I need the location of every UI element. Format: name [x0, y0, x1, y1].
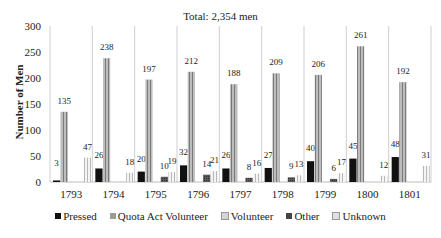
legend-label: Unknown: [342, 210, 385, 222]
bar-unknown: [295, 175, 302, 182]
legend-label: Quota Act Volunteer: [118, 210, 208, 222]
data-label: 9: [289, 161, 294, 171]
legend-swatch: [286, 213, 292, 219]
bar-unknown: [380, 176, 387, 182]
data-label: 8: [247, 162, 252, 172]
bar-quota-act-volunteer: [103, 58, 110, 182]
data-label: 32: [179, 147, 188, 157]
bar-quota-act-volunteer: [145, 80, 152, 182]
bar-quota-act-volunteer: [188, 72, 195, 182]
bar-other: [330, 179, 337, 182]
legend-swatch: [332, 212, 340, 220]
bar-unknown: [422, 166, 429, 182]
legend-label: Pressed: [63, 210, 97, 222]
legend: PressedQuota Act VolunteerVolunteerOther…: [0, 210, 441, 222]
data-label: 26: [94, 150, 104, 160]
data-label: 261: [354, 30, 368, 40]
bar-pressed: [95, 168, 102, 182]
legend-item: Pressed: [55, 210, 97, 222]
data-label: 26: [221, 150, 231, 160]
bar-other: [288, 177, 295, 182]
data-label: 188: [227, 68, 241, 78]
bar-pressed: [265, 168, 272, 182]
data-label: 197: [142, 64, 156, 74]
x-tick-label: 1801: [399, 188, 421, 200]
legend-swatch: [221, 212, 229, 220]
data-label: 209: [269, 57, 283, 67]
bar-chart: 0501001502002503001793179417951796179717…: [0, 0, 441, 238]
bar-unknown: [253, 174, 260, 182]
bar-unknown: [338, 173, 345, 182]
bar-unknown: [168, 172, 175, 182]
legend-label: Volunteer: [231, 210, 274, 222]
x-tick-label: 1794: [103, 188, 126, 200]
bar-quota-act-volunteer: [315, 75, 322, 182]
data-label: 206: [312, 59, 326, 69]
data-label: 18: [125, 157, 135, 167]
y-tick-label: 200: [25, 72, 42, 84]
bar-pressed: [180, 165, 187, 182]
bar-pressed: [392, 157, 399, 182]
bar-unknown: [211, 171, 218, 182]
x-tick-label: 1795: [145, 188, 168, 200]
bar-other: [161, 177, 168, 182]
y-tick-label: 250: [25, 46, 42, 58]
data-label: 31: [422, 150, 431, 160]
bar-unknown: [84, 158, 91, 182]
data-label: 12: [379, 160, 388, 170]
bar-pressed: [307, 161, 314, 182]
bar-other: [245, 178, 252, 182]
data-label: 47: [83, 142, 93, 152]
x-tick-label: 1796: [187, 188, 210, 200]
data-label: 17: [337, 157, 347, 167]
bar-pressed: [53, 180, 60, 182]
data-label: 20: [137, 154, 147, 164]
bar-quota-act-volunteer: [357, 46, 364, 182]
bar-quota-act-volunteer: [230, 84, 237, 182]
data-label: 27: [264, 150, 274, 160]
bar-other: [203, 175, 210, 182]
data-label: 45: [348, 141, 358, 151]
x-tick-label: 1799: [314, 188, 337, 200]
x-tick-label: 1800: [357, 188, 380, 200]
bar-pressed: [222, 168, 229, 182]
legend-item: Other: [286, 210, 319, 222]
x-tick-label: 1793: [60, 188, 83, 200]
data-label: 212: [185, 56, 199, 66]
x-tick-label: 1797: [230, 188, 253, 200]
bars: 3135472623818201971019322121421261888162…: [53, 30, 431, 182]
legend-item: Quota Act Volunteer: [110, 210, 208, 222]
data-label: 13: [295, 159, 305, 169]
legend-item: Unknown: [332, 210, 385, 222]
bar-pressed: [138, 172, 145, 182]
data-label: 40: [306, 143, 316, 153]
y-tick-label: 100: [25, 124, 42, 136]
bar-quota-act-volunteer: [272, 73, 279, 182]
data-label: 19: [168, 156, 178, 166]
x-tick-label: 1798: [272, 188, 295, 200]
y-tick-label: 50: [30, 150, 42, 162]
bar-unknown: [126, 173, 133, 182]
data-label: 3: [54, 158, 59, 168]
bar-pressed: [349, 159, 356, 182]
data-label: 238: [100, 42, 114, 52]
data-label: 192: [396, 66, 410, 76]
legend-label: Other: [294, 210, 319, 222]
bar-quota-act-volunteer: [399, 82, 406, 182]
y-tick-label: 0: [36, 176, 42, 188]
data-label: 135: [58, 96, 72, 106]
y-tick-label: 300: [25, 20, 42, 32]
data-label: 21: [210, 155, 219, 165]
legend-swatch: [55, 213, 61, 219]
data-label: 48: [391, 139, 401, 149]
legend-item: Volunteer: [221, 210, 274, 222]
y-tick-label: 150: [25, 98, 42, 110]
data-label: 16: [252, 158, 262, 168]
data-label: 6: [331, 163, 336, 173]
bar-quota-act-volunteer: [61, 112, 68, 182]
legend-swatch: [110, 213, 116, 219]
